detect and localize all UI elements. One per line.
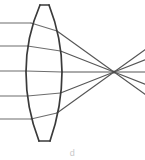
internal-ray-3-axis [26,71,62,72]
focal-point-marker [113,71,116,74]
converging-ray-2 [61,51,115,72]
internal-ray-2 [28,46,61,51]
diverging-ray-5 [114,50,145,72]
internal-ray-1 [31,23,57,31]
converging-ray-5 [57,72,114,113]
diverging-ray-1 [114,72,145,94]
lens-ray-diagram-figure: d [0,0,145,160]
lens-surface-right [49,5,62,141]
caption-partial-glyph: d [0,146,145,160]
diverging-ray-4 [114,60,145,72]
converging-ray-group [57,31,114,113]
internal-ray-4 [28,93,61,96]
lens-diagram-canvas [0,0,145,160]
diverging-ray-2 [114,72,145,84]
converging-ray-4 [61,72,115,93]
internal-ray-5 [31,113,57,119]
converging-ray-1 [57,31,114,72]
diverging-ray-group [114,50,145,95]
biconvex-lens-outline [26,5,62,141]
internal-ray-group [26,23,62,119]
